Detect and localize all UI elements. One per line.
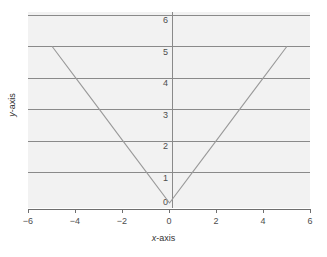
x-tick--2 — [122, 209, 123, 213]
y-axis-title-suffix: -axis — [7, 93, 17, 112]
x-axis-title: x-axis — [0, 233, 327, 243]
x-tick--6 — [28, 209, 29, 213]
x-tick--4 — [75, 209, 76, 213]
x-tick-4 — [263, 209, 264, 213]
chart-figure: 6 5 4 3 2 1 0 −6 −4 −2 0 2 4 6 x-axis y-… — [0, 0, 327, 257]
y-axis-title-variable: y — [7, 112, 17, 117]
y-axis-title: y-axis — [7, 75, 17, 135]
x-axis-title-suffix: -axis — [156, 233, 175, 243]
x-tick-6 — [310, 209, 311, 213]
x-tick-2 — [216, 209, 217, 213]
x-tick-label--4: −4 — [63, 216, 87, 226]
x-tick-label-2: 2 — [204, 216, 228, 226]
x-tick-label--2: −2 — [110, 216, 134, 226]
x-tick-0 — [169, 209, 170, 213]
x-tick-label-4: 4 — [251, 216, 275, 226]
x-tick-label--6: −6 — [16, 216, 40, 226]
x-tick-label-6: 6 — [298, 216, 322, 226]
x-tick-label-0: 0 — [157, 216, 181, 226]
series-line-abs-x — [52, 46, 287, 203]
